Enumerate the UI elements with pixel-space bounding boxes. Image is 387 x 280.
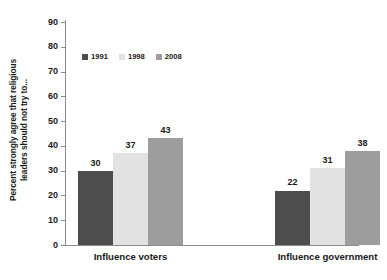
y-tick-label: 70 (18, 67, 58, 76)
y-tick-label: 50 (18, 117, 58, 126)
bar[interactable] (345, 151, 380, 245)
y-tick-label: 80 (18, 42, 58, 51)
y-tick-mark (61, 121, 65, 122)
bar-chart: Percent strongly agree that religious le… (0, 0, 387, 280)
y-tick-label: 30 (18, 166, 58, 175)
y-tick-mark (61, 72, 65, 73)
y-tick-mark (61, 47, 65, 48)
y-tick-label: 90 (18, 18, 58, 27)
y-tick-label: 0 (18, 241, 58, 250)
bar-value-label: 37 (111, 140, 151, 150)
legend-swatch-icon (82, 54, 88, 60)
legend: 199119982008 (82, 53, 182, 61)
y-tick-mark (61, 96, 65, 97)
bar[interactable] (148, 138, 183, 245)
y-tick-label: 60 (18, 92, 58, 101)
y-tick-mark (61, 220, 65, 221)
y-tick-mark (61, 171, 65, 172)
x-axis-category-label: Influence voters (51, 251, 211, 262)
x-axis-line (65, 245, 359, 246)
bar-value-label: 22 (273, 177, 313, 187)
y-tick-mark (61, 195, 65, 196)
y-tick-label: 40 (18, 141, 58, 150)
legend-label: 2008 (165, 53, 182, 61)
legend-item[interactable]: 1991 (82, 53, 108, 61)
bar[interactable] (275, 191, 310, 246)
legend-label: 1998 (128, 53, 145, 61)
legend-item[interactable]: 2008 (156, 53, 182, 61)
bar[interactable] (78, 171, 113, 245)
x-axis-category-label: Influence government (248, 251, 387, 262)
legend-label: 1991 (91, 53, 108, 61)
y-tick-label: 20 (18, 191, 58, 200)
y-tick-mark (61, 146, 65, 147)
bar[interactable] (113, 153, 148, 245)
legend-swatch-icon (156, 54, 162, 60)
y-axis-line (65, 20, 66, 246)
y-tick-label: 10 (18, 216, 58, 225)
bar[interactable] (310, 168, 345, 245)
y-tick-mark (61, 245, 65, 246)
bar-value-label: 43 (146, 125, 186, 135)
bar-value-label: 30 (76, 158, 116, 168)
y-tick-mark (61, 22, 65, 23)
legend-swatch-icon (119, 54, 125, 60)
bar-value-label: 31 (308, 155, 348, 165)
bar-value-label: 38 (343, 138, 383, 148)
legend-item[interactable]: 1998 (119, 53, 145, 61)
